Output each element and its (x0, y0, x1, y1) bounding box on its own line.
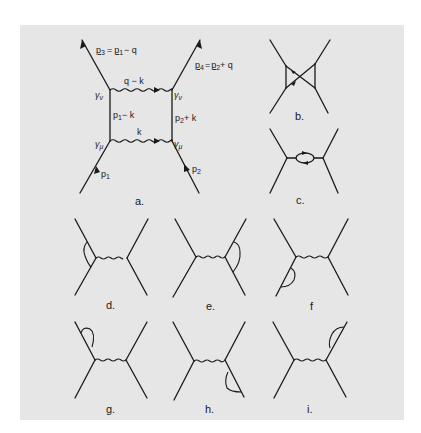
photon-line-bottom (110, 140, 172, 143)
label-p2-plus-k: p2+ k (175, 113, 197, 124)
arrow-icon-photon-bottom (154, 138, 160, 144)
diagram-d: d. (75, 219, 148, 311)
diagram-label-d: d. (106, 299, 115, 311)
label-p3-eq: p3=p1− q (96, 45, 137, 56)
label-p1: p1 (101, 169, 110, 180)
arrow-icon-p2 (184, 164, 190, 172)
diagram-b-crossed-box: b. (270, 40, 330, 122)
label-gamma-nu-left: γν (95, 90, 104, 101)
diagram-label-h: h. (205, 403, 214, 415)
label-gamma-nu-right: γν (174, 90, 183, 101)
photon-loop (233, 242, 240, 272)
fermion-loop (296, 153, 314, 163)
diagram-label-e: e. (206, 300, 215, 312)
arrow-icon (303, 161, 308, 165)
diagram-f: f (274, 219, 348, 312)
arrow-icon-photon-top (154, 87, 160, 93)
diagram-c-vacuum-polarization: c. (270, 129, 338, 206)
diagram-label-g: g. (106, 403, 115, 415)
diagram-a-box: p3=p1− q p4=p2+ q q − k k p1− k p2+ k p1… (80, 40, 233, 207)
diagram-label-f: f (310, 300, 314, 312)
arrow-icon (302, 151, 307, 155)
label-k: k (137, 127, 142, 137)
diagram-label-a: a. (135, 195, 144, 207)
diagram-label-b: b. (295, 110, 304, 122)
diagram-label-i: i. (307, 403, 313, 415)
label-gamma-mu-left: γμ (95, 139, 104, 151)
diagram-i: i. (273, 322, 347, 415)
label-p2: p2 (192, 164, 201, 175)
diagram-label-c: c. (296, 194, 305, 206)
feynman-diagrams-figure: p3=p1− q p4=p2+ q q − k k p1− k p2+ k p1… (0, 0, 421, 433)
photon-line-top (110, 89, 172, 92)
label-q-minus-k: q − k (124, 76, 144, 86)
diagram-g: g. (75, 322, 147, 415)
label-gamma-mu-right: γμ (174, 139, 183, 151)
diagram-h: h. (173, 322, 245, 415)
label-p4-eq: p4=p2+ q (195, 60, 233, 71)
diagram-e: e. (173, 219, 246, 312)
photon-loop (281, 268, 295, 287)
label-p1-minus-k: p1− k (113, 110, 135, 121)
